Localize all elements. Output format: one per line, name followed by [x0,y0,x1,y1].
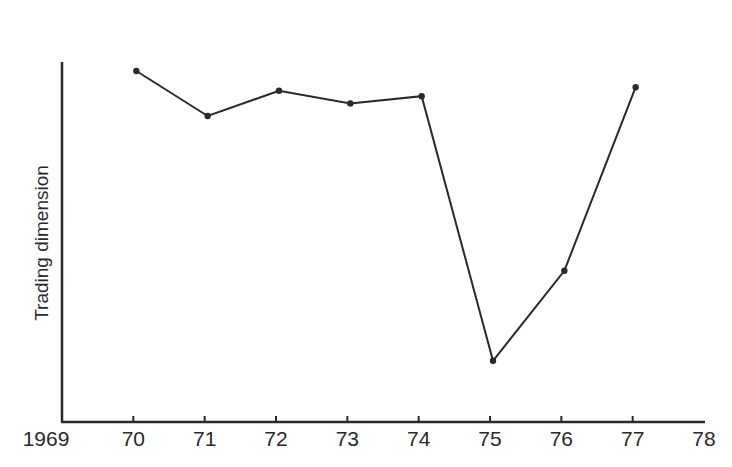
data-point [133,68,139,74]
data-point [490,358,496,364]
series-line [136,71,635,361]
axes [61,62,705,422]
x-tick-label: 78 [692,427,715,450]
data-point [632,84,638,90]
y-axis-title: Trading dimension [31,165,52,321]
data-point-markers [133,68,639,364]
x-tick-label: 71 [193,427,216,450]
x-tick-label: 70 [122,427,145,450]
x-tick-label: 76 [550,427,573,450]
data-point [204,113,210,119]
data-point [347,100,353,106]
x-tick-label: 72 [264,427,287,450]
line-chart: 1969707172737475767778 Trading dimension [0,0,732,467]
x-tick-label: 73 [336,427,359,450]
x-tick-label: 77 [621,427,644,450]
data-point [561,268,567,274]
x-tick-labels: 1969707172737475767778 [23,427,716,450]
x-tick-label: 74 [407,427,431,450]
data-point [276,88,282,94]
x-tick-label: 75 [478,427,501,450]
x-tick-label: 1969 [23,427,70,450]
data-point [418,93,424,99]
